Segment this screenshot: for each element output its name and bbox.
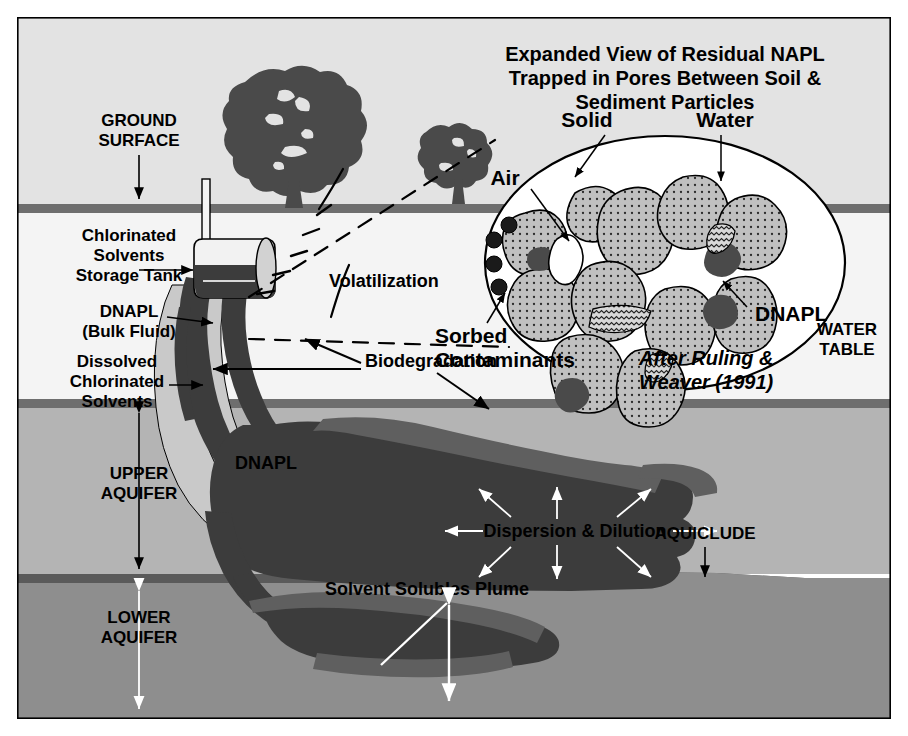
inset-label-sorbed-1: Sorbed bbox=[435, 324, 507, 347]
inset-label-air: Air bbox=[490, 166, 519, 189]
label-lower-aquifer-2: AQUIFER bbox=[101, 628, 178, 647]
tree-large bbox=[222, 66, 367, 196]
inset-title-line-2: Trapped in Pores Between Soil & bbox=[509, 67, 821, 89]
diagram-canvas: Solid Water Air DNAPL Sorbed Contaminant… bbox=[0, 0, 908, 736]
label-ground-surface-2: SURFACE bbox=[98, 131, 179, 150]
label-volatilization: Volatilization bbox=[329, 271, 439, 291]
label-tank-2: Solvents bbox=[94, 246, 165, 265]
label-biodegradation: Biodegradation bbox=[365, 351, 497, 371]
label-dnapl-mass: DNAPL bbox=[235, 453, 297, 473]
label-ground-surface-1: GROUND bbox=[101, 111, 177, 130]
label-water-table-1: WATER bbox=[817, 320, 877, 339]
diagram-frame: Solid Water Air DNAPL Sorbed Contaminant… bbox=[17, 17, 891, 719]
label-tank-1: Chlorinated bbox=[82, 226, 176, 245]
label-dissolved-3: Solvents bbox=[82, 392, 153, 411]
label-solvent-plume: Solvent Solubles Plume bbox=[325, 579, 529, 599]
label-dissolved-2: Chlorinated bbox=[70, 372, 164, 391]
tank-end-cap bbox=[256, 238, 276, 298]
label-dnapl-bulk-2: (Bulk Fluid) bbox=[82, 322, 175, 341]
tree-small bbox=[418, 123, 493, 189]
label-dissolved-1: Dissolved bbox=[77, 352, 157, 371]
tank-vent-pipe bbox=[202, 179, 210, 241]
inset-title-line-1: Expanded View of Residual NAPL bbox=[505, 43, 825, 65]
label-aquiclude: AQUICLUDE bbox=[654, 524, 755, 543]
inset-credit-line-2: Weaver (1991) bbox=[639, 371, 774, 393]
label-dispersion: Dispersion & Dilution bbox=[483, 521, 666, 541]
label-dnapl-bulk-1: DNAPL bbox=[100, 302, 159, 321]
inset-title-line-3: Sediment Particles bbox=[576, 91, 755, 113]
label-lower-aquifer-1: LOWER bbox=[107, 608, 170, 627]
label-tank-3: Storage Tank bbox=[76, 266, 183, 285]
inset-credit-line-1: After Ruling & bbox=[638, 347, 773, 369]
label-water-table-2: TABLE bbox=[819, 340, 874, 359]
